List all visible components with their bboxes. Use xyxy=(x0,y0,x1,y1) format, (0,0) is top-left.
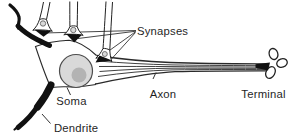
dendrite-lower-mid xyxy=(18,104,39,128)
soma-label: Soma xyxy=(56,95,87,107)
synapse-1 xyxy=(33,2,53,37)
synapse-3-tube xyxy=(103,2,113,51)
synapses-label: Synapses xyxy=(137,25,188,37)
synapse-2 xyxy=(64,2,83,43)
terminal-label: Terminal xyxy=(241,88,285,100)
synapse-3-vesicle xyxy=(102,52,107,57)
synapse-1-tube xyxy=(40,2,51,20)
soma-pointer-line xyxy=(67,88,71,96)
synapse-2-tube xyxy=(70,2,78,27)
axon-fiber xyxy=(99,66,267,67)
synapse-3 xyxy=(96,2,113,63)
dendrite-lower xyxy=(15,85,52,130)
terminal-bulb-right xyxy=(275,57,288,69)
dendrite-pointer-line xyxy=(42,114,51,124)
axon-label: Axon xyxy=(150,88,177,100)
dendrite-label: Dendrite xyxy=(54,122,98,134)
neuron-diagram: Synapses Soma Axon Terminal Dendrite xyxy=(0,0,297,140)
pointer-line-synapse-3b xyxy=(112,33,136,60)
synapse-2-vesicle xyxy=(71,27,76,32)
terminal-bulb-top xyxy=(268,47,280,60)
axon-terminal xyxy=(256,47,289,80)
neuron-diagram-canvas: Synapses Soma Axon Terminal Dendrite xyxy=(0,0,297,140)
nucleolus xyxy=(72,68,87,83)
axon-fiber xyxy=(95,71,267,84)
pointer-line-synapse-3a xyxy=(108,32,136,52)
axon-fibers xyxy=(95,56,267,85)
synapse-1-vesicle xyxy=(40,21,45,26)
